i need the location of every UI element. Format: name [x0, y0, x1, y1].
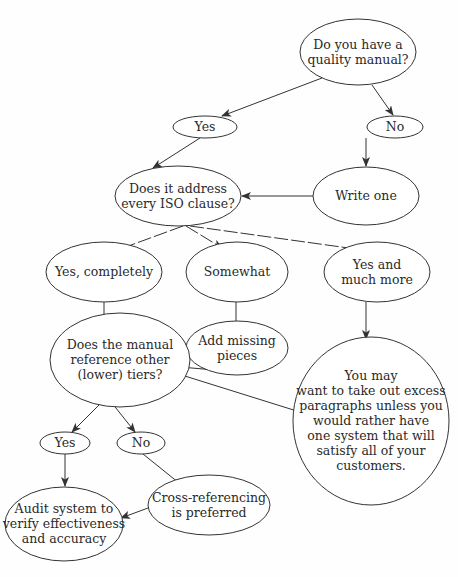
node-label-line: Cross-referencing	[152, 490, 266, 505]
node-label-line: You may	[343, 368, 398, 383]
node-label-line: every ISO clause?	[121, 196, 235, 211]
node-no1: No	[367, 116, 423, 138]
node-yes-completely: Yes, completely	[46, 242, 162, 302]
node-label-line: and accuracy	[22, 531, 107, 546]
node-label-line: Somewhat	[204, 264, 271, 279]
arrow-q_manual-to-no1	[372, 85, 393, 115]
node-label-line: Write one	[335, 188, 397, 203]
flowchart-svg: Do you have aquality manual?YesNoDoes it…	[0, 0, 458, 577]
node-label-line: customers.	[336, 458, 406, 473]
node-label-line: one system that will	[307, 428, 434, 443]
node-label-line: quality manual?	[307, 52, 408, 67]
node-q-reference: Does the manualreference other(lower) ti…	[50, 313, 190, 407]
node-take-out: You maywant to take out excessparagraphs…	[293, 337, 449, 505]
node-label-line: satisfy all of your	[316, 443, 425, 458]
arrow-q_manual-to-yes1	[222, 78, 322, 116]
node-label-line: Do you have a	[313, 37, 403, 52]
node-yes2: Yes	[40, 432, 90, 454]
node-label-line: Yes	[54, 435, 76, 450]
node-label-line: (lower) tiers?	[78, 367, 163, 382]
arrow-yes1-to-q_iso	[153, 138, 200, 168]
flowchart-canvas: Do you have aquality manual?YesNoDoes it…	[0, 0, 458, 577]
node-yes1: Yes	[173, 116, 237, 138]
node-no2: No	[117, 432, 165, 454]
node-label-line: Does it address	[129, 181, 227, 196]
node-label-line: No	[386, 119, 404, 134]
node-label-line: pieces	[217, 348, 257, 363]
node-add-missing: Add missingpieces	[186, 321, 288, 375]
node-label-line: Add missing	[197, 333, 276, 348]
node-label-line: Does the manual	[67, 337, 174, 352]
node-label-line: reference other	[70, 352, 169, 367]
node-label-line: would rather have	[313, 413, 429, 428]
node-label-line: want to take out excess	[296, 383, 445, 398]
node-label-line: Yes, completely	[54, 264, 154, 279]
node-label-line: Audit system to	[14, 501, 114, 516]
node-label-line: paragraphs unless you	[299, 398, 443, 413]
node-write-one: Write one	[313, 167, 419, 225]
node-somewhat: Somewhat	[186, 242, 288, 302]
node-label-line: Yes and	[352, 257, 401, 272]
node-cross-ref: Cross-referencingis preferred	[148, 475, 270, 535]
node-label-line: is preferred	[171, 505, 246, 520]
node-audit: Audit system toverify effectivenessand a…	[2, 487, 126, 561]
node-q-manual: Do you have aquality manual?	[300, 19, 416, 85]
node-label-line: much more	[341, 272, 413, 287]
node-label-line: Yes	[194, 119, 216, 134]
node-yes-more: Yes andmuch more	[324, 242, 430, 302]
node-label-line: verify effectiveness	[2, 516, 126, 531]
node-label-line: No	[132, 435, 150, 450]
nodes-layer: Do you have aquality manual?YesNoDoes it…	[2, 19, 449, 561]
node-q-iso: Does it addressevery ISO clause?	[115, 166, 241, 226]
